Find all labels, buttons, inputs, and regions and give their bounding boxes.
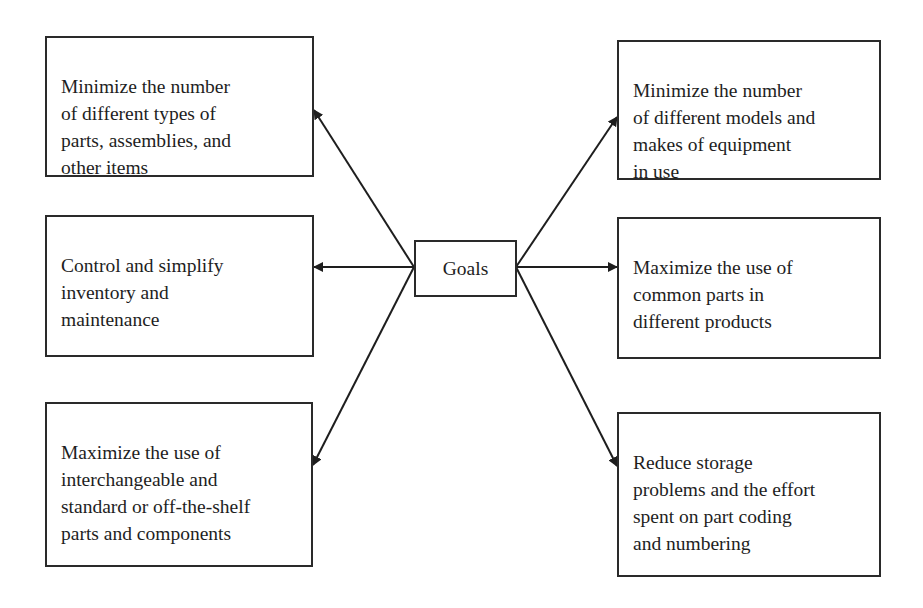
arrow-to-right-bottom — [516, 267, 617, 466]
goal-text: Maximize the use of interchangeable and … — [61, 442, 250, 544]
goal-box-right-top: Minimize the number of different models … — [617, 40, 881, 180]
arrow-to-right-top — [516, 117, 617, 267]
goal-box-left-top: Minimize the number of different types o… — [45, 36, 314, 177]
goal-box-right-bottom: Reduce storage problems and the effort s… — [617, 412, 881, 577]
goal-box-left-middle: Control and simplify inventory and maint… — [45, 215, 314, 357]
goals-label: Goals — [443, 258, 489, 280]
arrow-to-left-top — [314, 110, 414, 267]
goal-text: Minimize the number of different models … — [633, 80, 815, 182]
goal-text: Maximize the use of common parts in diff… — [633, 257, 793, 332]
goals-diagram: Minimize the number of different types o… — [0, 0, 923, 608]
arrow-to-left-bottom — [313, 267, 414, 465]
goal-text: Reduce storage problems and the effort s… — [633, 452, 815, 554]
goal-text: Control and simplify inventory and maint… — [61, 255, 224, 330]
goals-center-node: Goals — [414, 240, 517, 297]
goal-box-right-middle: Maximize the use of common parts in diff… — [617, 217, 881, 359]
goal-text: Minimize the number of different types o… — [61, 76, 231, 178]
goal-box-left-bottom: Maximize the use of interchangeable and … — [45, 402, 313, 567]
